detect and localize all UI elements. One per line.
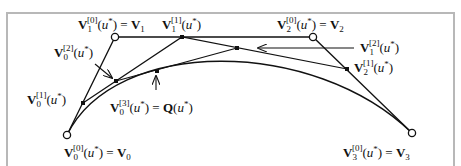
label-v2-1: V2[1](u*) <box>354 58 393 77</box>
label-v3-0: V3[0](u*) = V3 <box>343 143 410 162</box>
label-v1-2: V1[2](u*) <box>360 38 399 57</box>
point-v1-1-marker <box>180 35 184 39</box>
level-1-polygon <box>83 37 347 103</box>
vertex-v1-marker <box>111 33 118 40</box>
point-v2-1-marker <box>345 67 349 71</box>
point-v0-1-marker <box>81 101 85 105</box>
label-v1-1: V1[1](u*) <box>162 15 201 34</box>
label-v0-1: V0[1](u*) <box>27 90 66 109</box>
vertex-v2-marker <box>309 33 316 40</box>
label-v2-0: V2[0](u*) = V2 <box>277 15 344 34</box>
label-v0-2: V0[2](u*) <box>54 43 93 62</box>
arrow-to-v0-2 <box>95 64 112 78</box>
label-v0-0: V0[0](u*) = V0 <box>64 143 131 162</box>
bezier-de-casteljau-diagram: V1[0](u*) = V1 V1[1](u*) V2[0](u*) = V2 … <box>0 0 461 166</box>
label-v1-0: V1[0](u*) = V1 <box>78 15 145 34</box>
vertex-v0-marker <box>63 131 70 138</box>
diagram-canvas: V1[0](u*) = V1 V1[1](u*) V2[0](u*) = V2 … <box>0 0 461 166</box>
vertex-v3-marker <box>408 129 415 136</box>
point-q-marker <box>155 69 159 73</box>
point-v0-2-marker <box>114 79 118 83</box>
point-v1-2-marker <box>235 46 239 50</box>
label-v0-3-q: V0[3](u*) = Q(u*) <box>110 98 193 117</box>
